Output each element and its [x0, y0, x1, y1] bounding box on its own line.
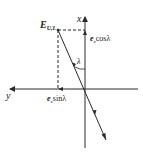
cos-component-label: excosλ: [90, 34, 110, 44]
sin-component-label: exsinλ: [47, 94, 66, 104]
angle-arc: [75, 67, 85, 69]
x-axis-label: x: [76, 13, 82, 24]
cos-component-arrow-icon: [83, 30, 87, 35]
direction-line: [58, 30, 106, 140]
angle-label: λ: [76, 57, 81, 66]
vector-diagram: x y EU,L λ excosλ exsinλ: [0, 0, 143, 152]
y-axis-label: y: [5, 90, 11, 101]
line-end-arrow-icon: [102, 133, 107, 140]
sin-component-arrow-icon: [58, 87, 63, 91]
point-label: EU,L: [39, 19, 57, 31]
